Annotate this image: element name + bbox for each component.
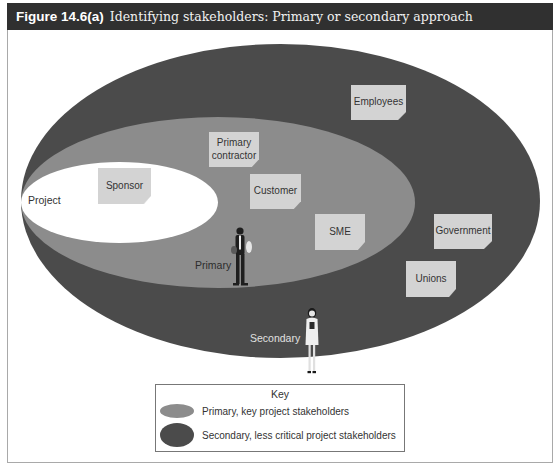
stakeholder-note-unions: Unions bbox=[406, 261, 456, 297]
zone-label-secondary: Secondary bbox=[250, 332, 300, 344]
stakeholder-label: Sponsor bbox=[106, 180, 143, 193]
legend-swatch-primary bbox=[160, 404, 194, 418]
legend-item-primary: Primary, key project stakeholders bbox=[160, 404, 349, 418]
legend-item-secondary: Secondary, less critical project stakeho… bbox=[160, 423, 396, 447]
stakeholder-note-employees: Employees bbox=[351, 85, 406, 120]
stakeholder-label: SME bbox=[329, 226, 351, 239]
stakeholder-note-customer: Customer bbox=[250, 174, 301, 209]
stakeholder-note-government: Government bbox=[434, 214, 492, 249]
stakeholder-label: Primary contractor bbox=[209, 137, 259, 162]
zone-label-primary: Primary bbox=[195, 259, 231, 271]
zone-label-project: Project bbox=[28, 194, 61, 206]
legend-swatch-secondary bbox=[160, 423, 194, 447]
legend-key: Key Primary, key project stakeholders Se… bbox=[155, 384, 405, 452]
stakeholder-label: Government bbox=[435, 225, 490, 238]
stakeholder-note-sponsor: Sponsor bbox=[98, 168, 151, 204]
stakeholder-note-primary-contractor: Primary contractor bbox=[209, 132, 259, 167]
stakeholder-note-sme: SME bbox=[315, 214, 365, 250]
stakeholder-label: Customer bbox=[254, 185, 297, 198]
legend-label-primary: Primary, key project stakeholders bbox=[202, 406, 349, 417]
legend-label-secondary: Secondary, less critical project stakeho… bbox=[202, 430, 396, 441]
stakeholder-label: Unions bbox=[415, 273, 446, 286]
legend-title: Key bbox=[156, 388, 404, 400]
stakeholder-label: Employees bbox=[354, 96, 403, 109]
